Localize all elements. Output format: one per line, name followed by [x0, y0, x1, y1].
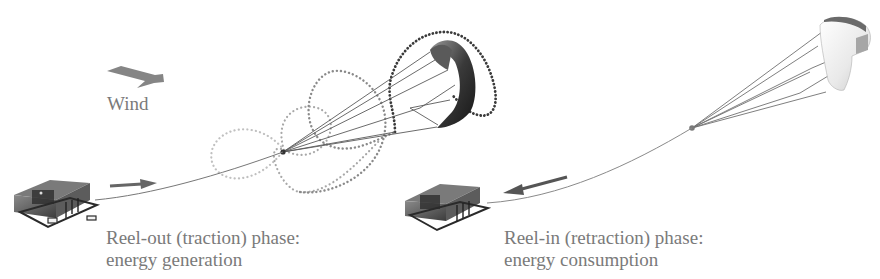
reel-out-subtitle: energy generation [106, 249, 300, 271]
wind-arrow-icon [107, 66, 164, 88]
reel-out-tether [95, 152, 283, 200]
reel-in-arrow-icon [503, 177, 567, 195]
reel-out-ground-station-icon [14, 180, 97, 227]
reel-in-kite [689, 17, 870, 131]
reel-in-subtitle: energy consumption [504, 249, 703, 271]
reel-in-ground-station-icon [405, 184, 488, 230]
reel-out-caption: Reel-out (traction) phase: energy genera… [106, 227, 300, 271]
wind-label: Wind [107, 93, 148, 115]
reel-out-arrow-icon [110, 179, 157, 189]
reel-in-caption: Reel-in (retraction) phase: energy consu… [504, 227, 703, 271]
reel-in-title: Reel-in (retraction) phase: [504, 227, 703, 249]
reel-out-title: Reel-out (traction) phase: [106, 227, 300, 249]
